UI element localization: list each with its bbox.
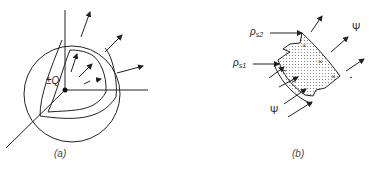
rho-s1-subscript: s1	[239, 62, 246, 69]
rho-s1-label: ρs1	[233, 57, 246, 69]
panel-b-caption: (b)	[292, 148, 304, 159]
rho-s2-subscript: s2	[256, 31, 263, 38]
psi-bottom-label: Ψ	[270, 105, 278, 116]
psi-top-label: Ψ	[352, 22, 360, 33]
charge-label: ±Q	[46, 75, 59, 86]
panel-a-caption: (a)	[54, 148, 66, 159]
svg-text:×: ×	[302, 41, 307, 50]
svg-text:×: ×	[331, 72, 336, 81]
svg-text:×: ×	[318, 57, 323, 66]
panel-a-diagram	[6, 10, 148, 148]
rho-s2-label: ρs2	[250, 26, 263, 38]
panel-b-diagram: × × ×	[253, 16, 364, 117]
